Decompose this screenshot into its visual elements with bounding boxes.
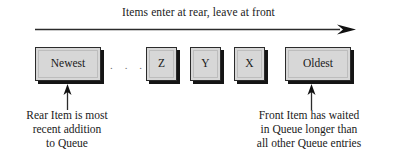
queue-box-label: Y <box>201 58 209 70</box>
queue-box-row: Newest Z Y X Oldest <box>0 47 397 87</box>
queue-box-label: X <box>245 58 253 70</box>
queue-box-newest: Newest <box>35 47 101 81</box>
queue-box-label: Oldest <box>303 58 333 70</box>
rear-callout-arrow-icon <box>62 84 73 110</box>
queue-box-z: Z <box>146 47 177 81</box>
front-caption-line-2: in Queue longer than <box>226 122 392 136</box>
queue-box-label: Z <box>158 58 165 70</box>
front-caption-line-3: all other Queue entries <box>226 136 392 150</box>
front-caption-line-1: Front Item has waited <box>226 108 392 122</box>
queue-box-label: Newest <box>51 58 86 70</box>
ellipsis-dot-2: . <box>125 60 128 71</box>
queue-box-x: X <box>234 47 265 81</box>
ellipsis-dot-1: . <box>110 60 113 71</box>
front-callout-arrow-icon <box>306 84 317 110</box>
ellipsis-dot-3: . <box>139 60 142 71</box>
queue-diagram: Items enter at rear, leave at front Newe… <box>0 0 397 167</box>
rear-callout-caption: Rear Item is most recent addition to Que… <box>6 108 128 150</box>
top-caption: Items enter at rear, leave at front <box>0 6 397 18</box>
flow-direction-arrow <box>34 22 356 34</box>
queue-box-y: Y <box>190 47 221 81</box>
rear-caption-line-1: Rear Item is most <box>6 108 128 122</box>
rear-caption-line-2: recent addition <box>6 122 128 136</box>
queue-box-oldest: Oldest <box>285 47 351 81</box>
ellipsis-dots: . . . <box>110 59 142 71</box>
front-callout-caption: Front Item has waited in Queue longer th… <box>226 108 392 150</box>
rear-caption-line-3: to Queue <box>6 136 128 150</box>
